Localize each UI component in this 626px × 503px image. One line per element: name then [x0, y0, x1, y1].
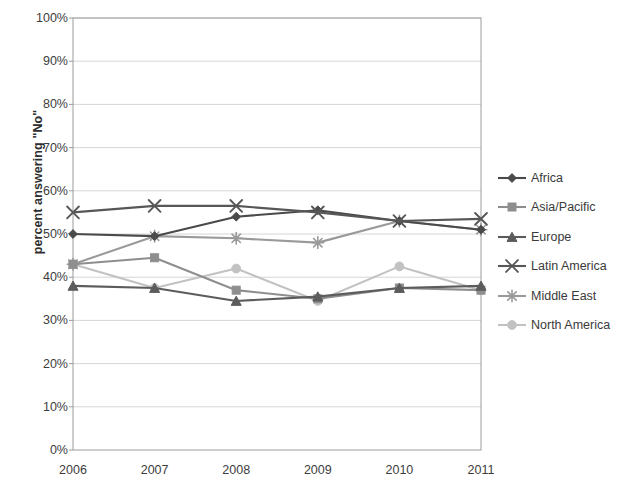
marker-circle — [508, 321, 517, 330]
x-tick-label: 2007 — [141, 463, 169, 477]
legend-label: Asia/Pacific — [531, 201, 596, 214]
marker-star — [506, 290, 518, 302]
data-point-circle — [508, 321, 517, 330]
legend-label: Latin America — [531, 260, 607, 273]
legend-marker-triangle-icon — [497, 228, 527, 246]
legend-item-middle-east[interactable]: Middle East — [497, 281, 626, 311]
x-tick-label: 2006 — [59, 463, 87, 477]
x-tick-label: 2009 — [304, 463, 332, 477]
x-tick-label: 2010 — [385, 463, 413, 477]
line-chart: percent answering "No" 0%10%20%30%40%50%… — [0, 0, 626, 503]
legend-item-north-america[interactable]: North America — [497, 311, 626, 341]
legend-label: Africa — [531, 172, 563, 185]
x-tick-label: 2008 — [222, 463, 250, 477]
legend-marker-diamond-icon — [497, 169, 527, 187]
marker-square — [508, 203, 516, 211]
x-tick-label: 2011 — [468, 463, 495, 477]
legend-marker-star-icon — [497, 287, 527, 305]
legend-label: Middle East — [531, 290, 596, 303]
data-point-star — [506, 290, 518, 302]
legend-item-europe[interactable]: Europe — [497, 222, 626, 252]
legend-label: Europe — [531, 231, 571, 244]
marker-diamond — [508, 173, 517, 182]
data-point-diamond — [508, 173, 517, 182]
legend-marker-square-icon — [497, 198, 527, 216]
data-point-square — [508, 203, 516, 211]
legend-label: North America — [531, 319, 610, 332]
legend-item-latin-america[interactable]: Latin America — [497, 252, 626, 282]
legend-item-asia-pacific[interactable]: Asia/Pacific — [497, 193, 626, 223]
legend-item-africa[interactable]: Africa — [497, 163, 626, 193]
legend-marker-circle-icon — [497, 316, 527, 334]
legend-marker-x-icon — [497, 257, 527, 275]
chart-legend: AfricaAsia/PacificEuropeLatin AmericaMid… — [497, 163, 626, 340]
